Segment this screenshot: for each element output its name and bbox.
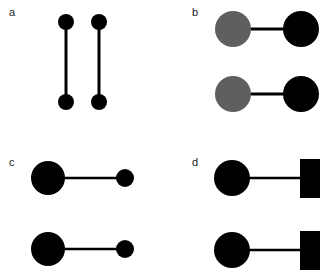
large-node-circle: [31, 232, 65, 266]
diagram-canvas: [0, 0, 330, 278]
pair-row-1: [214, 159, 320, 198]
small-node-circle: [116, 169, 134, 187]
pair-row-1: [31, 161, 134, 195]
black-node-circle: [283, 76, 319, 112]
large-node-circle: [31, 161, 65, 195]
pair-row-1: [215, 11, 319, 47]
node-rectangle: [300, 159, 320, 198]
panel-b: [215, 11, 319, 112]
node-rectangle: [300, 231, 320, 270]
node-circle: [91, 14, 107, 30]
gray-node-circle: [215, 11, 251, 47]
panel-d: [214, 159, 320, 270]
node-circle: [58, 94, 74, 110]
node-circle: [214, 232, 250, 268]
panel-c: [31, 161, 134, 266]
pair-row-2: [214, 231, 320, 270]
dumbbell-vertical-left: [58, 14, 74, 110]
small-node-circle: [116, 240, 134, 258]
pair-row-2: [31, 232, 134, 266]
node-circle: [58, 14, 74, 30]
black-node-circle: [283, 11, 319, 47]
dumbbell-vertical-right: [91, 14, 107, 110]
panel-a: [58, 14, 107, 110]
node-circle: [91, 94, 107, 110]
pair-row-2: [215, 76, 319, 112]
node-circle: [214, 160, 250, 196]
gray-node-circle: [215, 76, 251, 112]
